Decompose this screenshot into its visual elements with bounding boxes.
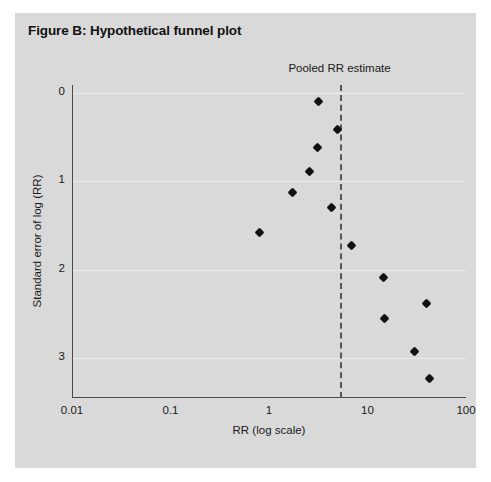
- data-point: [378, 273, 388, 283]
- pooled-rr-estimate-label: Pooled RR estimate: [288, 62, 390, 74]
- x-tick-label: 0.1: [163, 405, 179, 417]
- x-tick-label: 1: [266, 405, 272, 417]
- data-point: [346, 240, 356, 250]
- x-axis-title: RR (log scale): [72, 424, 466, 436]
- y-tick-label: 3: [39, 351, 65, 363]
- y-axis-line: [72, 85, 73, 398]
- gridline: [73, 358, 466, 359]
- data-point: [422, 298, 432, 308]
- y-axis-title: Standard error of log (RR): [31, 136, 43, 346]
- x-axis-line: [72, 397, 466, 398]
- x-tick-label: 0.01: [61, 405, 83, 417]
- data-point: [304, 167, 314, 177]
- x-tick-label: 10: [361, 405, 374, 417]
- y-tick-label: 0: [39, 86, 65, 98]
- data-point: [425, 374, 435, 384]
- data-point: [288, 187, 298, 197]
- funnel-plot-figure: Figure B: Hypothetical funnel plot 0123 …: [15, 13, 476, 468]
- gridline: [73, 270, 466, 271]
- data-point: [314, 97, 324, 107]
- data-point: [410, 346, 420, 356]
- gridline: [73, 181, 466, 182]
- x-tick-label: 100: [456, 405, 475, 417]
- data-point: [255, 228, 265, 238]
- data-point: [312, 143, 322, 153]
- gridline: [73, 93, 466, 94]
- data-point: [326, 203, 336, 213]
- data-point: [380, 313, 390, 323]
- plot-area: 0123 0.010.1110100 Standard error of log…: [15, 13, 476, 468]
